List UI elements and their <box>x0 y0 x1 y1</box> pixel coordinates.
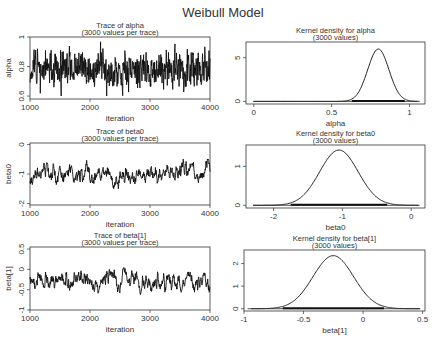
plot-grid: Trace of alpha(3000 values per trace)100… <box>0 0 432 340</box>
panel-subtitle: (3000 values per trace) <box>81 134 159 143</box>
y-tick-label: -2 <box>17 199 26 207</box>
x-tick-label: 0.5 <box>326 108 338 117</box>
y-tick-label: -1 <box>17 306 26 314</box>
y-axis-label: beta[1] <box>4 266 13 290</box>
x-tick-label: 0 <box>361 315 366 324</box>
y-tick-label: 1 <box>233 164 242 169</box>
x-tick-label: -0.5 <box>297 315 311 324</box>
y-tick-label: 0.5 <box>17 243 26 255</box>
y-tick-label: 0 <box>233 203 242 208</box>
x-tick-label: 2000 <box>81 209 99 218</box>
y-tick-label: 0 <box>17 267 26 272</box>
plot-frame <box>30 247 210 310</box>
x-tick-label: -1 <box>339 212 347 221</box>
x-tick-label: 4000 <box>201 209 219 218</box>
y-tick-label: 0 <box>233 99 242 104</box>
trace-line <box>30 42 210 96</box>
plot-frame <box>244 250 425 311</box>
x-axis-label: alpha <box>326 119 346 128</box>
panel-subtitle: (3000 values) <box>313 33 359 42</box>
y-tick-label: -0.5 <box>17 282 26 296</box>
y-axis-label: beta0 <box>4 163 13 184</box>
x-axis-label: iteration <box>106 114 134 123</box>
density-curve <box>253 49 419 101</box>
x-tick-label: -2 <box>270 212 278 221</box>
y-tick-label: 0.6 <box>17 90 26 102</box>
y-tick-label: 0.8 <box>17 60 26 72</box>
density-curve <box>251 256 419 309</box>
x-tick-label: 3000 <box>141 103 159 112</box>
panel-subtitle: (3000 values) <box>312 241 358 250</box>
x-tick-label: 2000 <box>81 314 99 323</box>
x-tick-label: 4000 <box>201 103 219 112</box>
y-tick-label: 1 <box>231 283 240 288</box>
x-axis-label: iteration <box>106 325 134 334</box>
x-tick-label: 2000 <box>81 103 99 112</box>
panel-kernel-density-for-beta-1: Kernel density for beta[1](3000 values)-… <box>231 234 429 335</box>
x-axis-label: iteration <box>106 220 134 229</box>
y-axis-label: alpha <box>4 58 13 78</box>
x-tick-label: -1 <box>240 315 248 324</box>
x-tick-label: 3000 <box>141 209 159 218</box>
x-axis-label: beta0 <box>325 223 346 232</box>
panel-kernel-density-for-beta0: Kernel density for beta0(3000 values)-2-… <box>233 129 425 232</box>
panel-kernel-density-for-alpha: Kernel density for alpha(3000 values)00.… <box>233 26 425 128</box>
y-tick-label: 2 <box>231 261 240 266</box>
trace-line <box>30 268 210 295</box>
x-tick-label: 3000 <box>141 314 159 323</box>
y-tick-label: 1 <box>17 34 26 39</box>
panel-subtitle: (3000 values per trace) <box>81 28 159 37</box>
plot-frame <box>246 42 425 104</box>
x-tick-label: 1000 <box>21 314 39 323</box>
x-tick-label: 1 <box>407 108 412 117</box>
x-tick-label: 1000 <box>21 209 39 218</box>
y-tick-label: -1 <box>17 170 26 178</box>
x-tick-label: 0 <box>409 212 414 221</box>
x-tick-label: 4000 <box>201 314 219 323</box>
y-tick-label: 0 <box>17 142 26 147</box>
x-tick-label: 0 <box>252 108 257 117</box>
trace-line <box>30 159 210 189</box>
y-tick-label: 5 <box>233 55 242 60</box>
panel-subtitle: (3000 values per trace) <box>81 238 159 247</box>
panel-subtitle: (3000 values) <box>313 136 359 145</box>
plot-frame <box>246 145 425 208</box>
panel-trace-of-beta-1: Trace of beta[1](3000 values per trace)1… <box>4 231 219 334</box>
y-tick-label: 0 <box>231 306 240 311</box>
panel-trace-of-alpha: Trace of alpha(3000 values per trace)100… <box>4 21 219 123</box>
density-curve <box>253 150 419 205</box>
x-tick-label: 0.5 <box>417 315 429 324</box>
x-axis-label: beta[1] <box>322 326 346 335</box>
x-tick-label: 1000 <box>21 103 39 112</box>
panel-trace-of-beta0: Trace of beta0(3000 values per trace)100… <box>4 127 219 229</box>
